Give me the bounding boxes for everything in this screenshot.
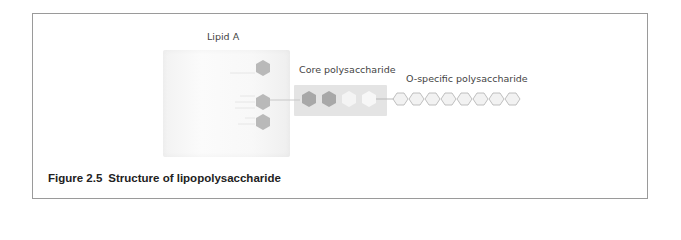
lipid-a-hexagon-3 <box>256 114 270 130</box>
o-hexagon-7 <box>489 93 504 105</box>
figure-number: Figure 2.5 <box>48 172 102 184</box>
o-hexagon-8 <box>505 93 520 105</box>
core-hexagon-1 <box>302 91 316 107</box>
lipid-a-hexagon-2 <box>256 94 270 110</box>
o-hexagon-5 <box>457 93 472 105</box>
figure-caption: Figure 2.5Structure of lipopolysaccharid… <box>48 172 281 184</box>
o-hexagon-1 <box>393 93 408 105</box>
figure-title: Structure of lipopolysaccharide <box>108 172 281 184</box>
o-specific-hexagons <box>393 93 520 105</box>
o-hexagon-3 <box>425 93 440 105</box>
fatty-acid-chains <box>230 73 255 124</box>
core-hexagon-4 <box>362 91 376 107</box>
core-hexagons <box>302 91 376 107</box>
o-hexagon-2 <box>409 93 424 105</box>
o-hexagon-4 <box>441 93 456 105</box>
core-hexagon-2 <box>322 91 336 107</box>
core-hexagon-3 <box>342 91 356 107</box>
o-hexagon-6 <box>473 93 488 105</box>
lipid-a-hexagons <box>256 60 270 130</box>
lipid-a-hexagon-1 <box>256 60 270 76</box>
